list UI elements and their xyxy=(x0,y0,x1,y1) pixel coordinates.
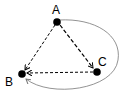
node-c xyxy=(93,68,101,76)
edge-a-b-dashed xyxy=(25,25,55,70)
node-a xyxy=(53,18,61,26)
node-a-label: A xyxy=(52,3,60,17)
diagram-canvas: A B C xyxy=(0,0,123,98)
node-b-label: B xyxy=(5,75,13,89)
edge-c-b-dashed xyxy=(27,72,93,73)
node-b xyxy=(18,70,26,78)
edge-a-c-dashed xyxy=(60,25,93,68)
node-c-label: C xyxy=(98,55,107,69)
